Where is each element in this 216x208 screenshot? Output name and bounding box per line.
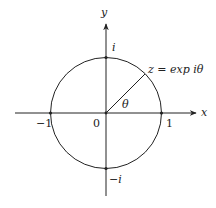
origin-label: 0: [93, 118, 100, 129]
y-axis-label: y: [101, 7, 107, 18]
point-minus-one: [49, 111, 52, 114]
minus-one-label: −1: [36, 118, 52, 129]
origin-point: [105, 112, 108, 115]
plus-i-label: i: [112, 42, 116, 53]
theta-label: θ: [122, 99, 129, 110]
point-plus-i: [104, 56, 107, 59]
z-exp-label: z = exp iθ: [148, 64, 203, 75]
unit-circle-diagram: [0, 0, 216, 208]
minus-i-label: −i: [109, 174, 122, 185]
point-plus-one: [160, 111, 163, 114]
point-minus-i: [104, 167, 107, 170]
plus-one-label: 1: [166, 118, 173, 129]
x-axis-label: x: [201, 107, 207, 118]
